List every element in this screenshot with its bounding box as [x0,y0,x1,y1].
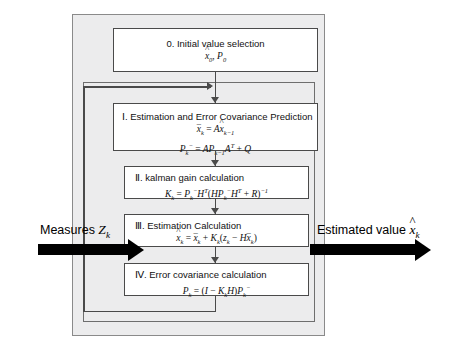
step-4-title: Ⅳ. Error covariance calculation [125,269,308,281]
step-4-equation-1: Pk = (I − KkH)Pk− [125,281,308,301]
output-arrow-body [310,244,415,255]
input-label-measures: Measures Zk [40,222,110,240]
feedback-line-left-riser [83,86,85,312]
output-label-text: Estimated value [317,223,409,237]
input-arrow-body [38,244,128,255]
step-box-estimation-calculation[interactable]: Ⅲ. Estimation Calculation ^xk = –xk + Kk… [124,214,309,247]
input-label-text: Measures [40,223,98,237]
feedback-line-bottom [83,311,216,313]
step-2-title: Ⅱ. kalman gain calculation [125,172,308,184]
input-arrow-head-icon [128,239,144,261]
diagram-canvas: 0. Initial value selection ^x0, P0 Ⅰ. Es… [0,0,451,353]
step-1-equation-1: –xk = A^xk−1 [114,123,317,139]
step-box-estimation-and-error-covariance-prediction[interactable]: Ⅰ. Estimation and Error Covariance Predi… [113,103,318,151]
step-0-title: 0. Initial value selection [114,38,317,50]
step-2-equation-1: Kk = Pk−HT(HPk−HT + R)−1 [125,184,308,204]
step-box-error-covariance-calculation[interactable]: Ⅳ. Error covariance calculation Pk = (I … [124,263,309,296]
feedback-line-top [83,86,211,88]
step-0-equation-1: ^x0, P0 [114,50,317,66]
step-1-title: Ⅰ. Estimation and Error Covariance Predi… [114,111,317,123]
output-arrow-head-icon [415,239,431,261]
output-label-estimated-value: Estimated value ^xk [317,222,420,240]
step-3-title: Ⅲ. Estimation Calculation [125,220,308,232]
step-box-initial-value-selection[interactable]: 0. Initial value selection ^x0, P0 [113,28,318,72]
step-3-equation-1: ^xk = –xk + Kk(zk − H–xk) [125,232,308,248]
step-box-kalman-gain-calculation[interactable]: Ⅱ. kalman gain calculation Kk = Pk−HT(HP… [124,166,309,199]
